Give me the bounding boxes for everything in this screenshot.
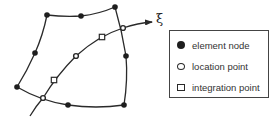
integration-point-icon <box>99 34 104 39</box>
filled-circle-icon <box>177 41 185 49</box>
legend-label: location point <box>192 61 248 72</box>
location-point-icon <box>121 26 126 31</box>
legend-item-element-node: element node <box>177 38 250 52</box>
element-node-icon <box>123 53 129 59</box>
location-point-icon <box>41 96 46 101</box>
legend-item-location-point: location point <box>177 59 248 73</box>
xi-coordinate-line <box>30 22 152 116</box>
element-node-icon <box>65 102 71 108</box>
element-node-icon <box>32 50 38 56</box>
element-edge-left <box>17 15 47 87</box>
element-node-icon <box>14 84 20 90</box>
element-node-icon <box>44 12 50 18</box>
location-point-icon <box>74 54 79 59</box>
integration-point-icon <box>51 77 56 82</box>
legend: element node location point integration … <box>169 30 269 98</box>
element-node-icon <box>112 4 118 10</box>
xi-axis-label: ξ <box>156 12 163 25</box>
legend-label: integration point <box>192 82 260 93</box>
legend-item-integration-point: integration point <box>177 80 260 94</box>
element-node-icon <box>78 13 84 19</box>
element-node-icon <box>121 102 127 108</box>
open-circle-icon <box>177 63 185 70</box>
location-points <box>41 26 126 101</box>
element-nodes <box>14 4 129 108</box>
legend-label: element node <box>192 40 250 51</box>
open-square-icon <box>177 84 185 91</box>
